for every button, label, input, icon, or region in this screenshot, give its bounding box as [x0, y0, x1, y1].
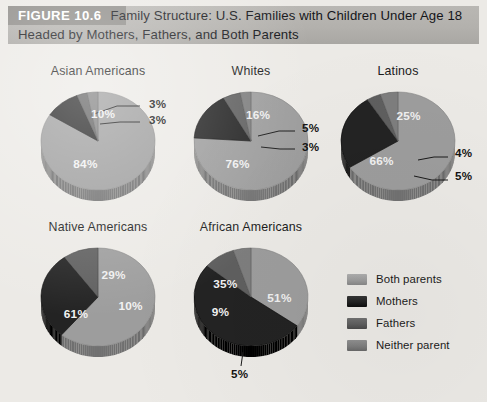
pie-chart-block: Latinos66%25%4%5% [322, 64, 474, 234]
pie-slice-label: 9% [212, 305, 229, 319]
pie-slice-label: 84% [73, 157, 97, 171]
pie-slice-label: 25% [396, 109, 420, 123]
pie-chart-block: African Americans35%51%9%5% [175, 220, 327, 390]
legend-label: Both parents [376, 273, 442, 285]
pie-chart-block: Whites76%16%5%3% [175, 64, 327, 234]
legend-swatch-icon [347, 340, 367, 351]
pie-callout-label: 3% [149, 97, 166, 110]
pie-slice-label: 66% [370, 154, 394, 168]
pie-callout-label: 5% [455, 169, 472, 182]
pie-slice-label: 10% [91, 107, 115, 121]
pie-slice-label: 29% [102, 268, 126, 282]
legend-label: Neither parent [376, 339, 450, 351]
legend-swatch-icon [347, 318, 367, 329]
figure-title-band: FIGURE 10.6Family Structure: U.S. Famili… [8, 6, 479, 44]
legend-label: Mothers [376, 295, 418, 307]
pie-slice-label: 16% [246, 108, 270, 122]
pie-chart-title: Native Americans [22, 220, 174, 234]
chart-legend: Both parentsMothersFathersNeither parent [347, 268, 450, 356]
pie-callout-label: 3% [302, 140, 319, 153]
pie-chart-title: Whites [175, 64, 327, 78]
legend-item: Fathers [347, 312, 450, 334]
pie-slice-label: 76% [225, 157, 249, 171]
pie-callout-label: 5% [231, 367, 248, 380]
legend-label: Fathers [376, 317, 415, 329]
legend-item: Neither parent [347, 334, 450, 356]
figure-number-label: FIGURE 10.6 [18, 8, 111, 23]
pie-chart-title: Latinos [322, 64, 474, 78]
legend-swatch-icon [347, 274, 367, 285]
legend-swatch-icon [347, 296, 367, 307]
figure-container: FIGURE 10.6Family Structure: U.S. Famili… [0, 0, 487, 402]
legend-item: Both parents [347, 268, 450, 290]
pie-callout-label: 5% [302, 121, 319, 134]
pie-slice-label: 51% [267, 291, 291, 305]
pie-chart-title: African Americans [175, 220, 327, 234]
pie-slice-label: 61% [64, 307, 88, 321]
pie-callout-label: 4% [455, 146, 472, 159]
pie-chart-block: Asian Americans84%10%3%3% [22, 64, 174, 234]
page-title: FIGURE 10.6Family Structure: U.S. Famili… [18, 7, 473, 43]
pie-slice-label: 10% [118, 299, 142, 313]
pie-chart-graphic [22, 240, 174, 373]
pie-slice-label: 35% [213, 277, 237, 291]
pie-chart-graphic [175, 240, 327, 373]
pie-chart-title: Asian Americans [22, 64, 174, 78]
pie-chart-block: Native Americans61%29%10% [22, 220, 174, 390]
pie-chart-graphic [322, 84, 474, 217]
pie-callout-label: 3% [149, 113, 166, 126]
legend-item: Mothers [347, 290, 450, 312]
